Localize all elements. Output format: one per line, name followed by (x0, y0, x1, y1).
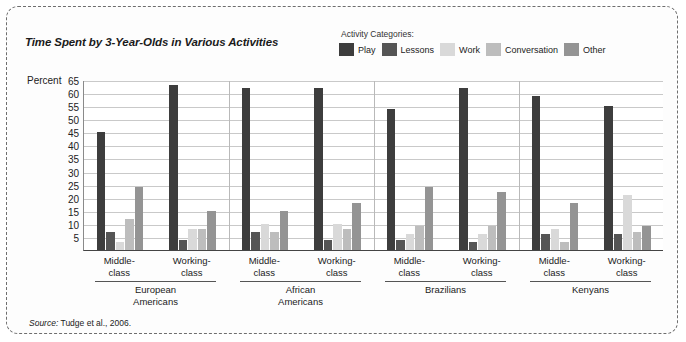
page-title: Time Spent by 3-Year-Olds in Various Act… (25, 36, 278, 48)
x-axis-labels: Middle-classWorking-classEuropeanAmerica… (83, 253, 663, 323)
bar-play (532, 96, 541, 250)
legend-items: PlayLessonsWorkConversationOther (339, 43, 669, 56)
group-separator (229, 81, 230, 250)
bar-lessons (469, 242, 478, 250)
legend-swatch-icon (564, 43, 579, 56)
legend-item-play[interactable]: Play (339, 43, 376, 56)
bar-conversation (198, 229, 207, 250)
bar-conversation (343, 229, 352, 250)
bar-other (352, 203, 361, 250)
x-sublabel: Middle-class (228, 255, 301, 278)
y-tick-label: 40 (68, 141, 79, 152)
bar-work (188, 229, 197, 250)
plot-wrapper: 6560555045403530252015105 (83, 81, 663, 251)
x-group-label: EuropeanAmericans (83, 284, 228, 307)
bar-lessons (614, 234, 623, 250)
group-separator (519, 81, 520, 250)
bar-lessons (396, 240, 405, 250)
bar-work (623, 195, 632, 250)
group-separator (374, 81, 375, 250)
bar-work (478, 234, 487, 250)
bar-other (570, 203, 579, 250)
group-rule (385, 281, 506, 282)
bar-work (333, 224, 342, 250)
bar-other (642, 226, 651, 250)
bar-work (261, 224, 270, 250)
legend-item-conversation[interactable]: Conversation (486, 43, 558, 56)
x-sublabel: Working-class (156, 255, 229, 278)
chart-legend: Activity Categories: PlayLessonsWorkConv… (339, 29, 669, 56)
x-group-label: Brazilians (373, 284, 518, 296)
bar-lessons (106, 232, 115, 250)
y-tick-label: 25 (68, 180, 79, 191)
bar-play (314, 88, 323, 250)
legend-swatch-icon (339, 43, 354, 56)
bar-other (135, 187, 144, 250)
bar-conversation (415, 226, 424, 250)
legend-item-label: Work (459, 45, 480, 55)
y-tick-label: 15 (68, 206, 79, 217)
bar-other (497, 192, 506, 250)
plot-area: 6560555045403530252015105 (83, 81, 663, 251)
legend-item-other[interactable]: Other (564, 43, 606, 56)
figure-panel: Time Spent by 3-Year-Olds in Various Act… (6, 6, 678, 334)
bar-lessons (324, 240, 333, 250)
legend-item-label: Conversation (505, 45, 558, 55)
bar-other (207, 211, 216, 250)
y-tick-label: 50 (68, 115, 79, 126)
bar-lessons (541, 234, 550, 250)
legend-item-label: Play (358, 45, 376, 55)
x-sublabel: Middle-class (518, 255, 591, 278)
y-tick-label: 35 (68, 154, 79, 165)
bar-play (242, 88, 251, 250)
source-citation: Tudge et al., 2006. (58, 318, 131, 328)
bar-conversation (488, 226, 497, 250)
y-tick-label: 20 (68, 193, 79, 204)
y-tick-label: 60 (68, 89, 79, 100)
group-rule (95, 281, 216, 282)
x-sublabel: Working-class (446, 255, 519, 278)
bar-conversation (633, 232, 642, 250)
legend-swatch-icon (440, 43, 455, 56)
legend-item-work[interactable]: Work (440, 43, 480, 56)
y-tick-label: 10 (68, 219, 79, 230)
bar-other (425, 187, 434, 250)
y-tick-label: 30 (68, 167, 79, 178)
legend-swatch-icon (486, 43, 501, 56)
x-group-label: Kenyans (518, 284, 663, 296)
bar-play (387, 109, 396, 250)
legend-item-lessons[interactable]: Lessons (382, 43, 435, 56)
legend-title: Activity Categories: (341, 29, 669, 39)
bar-work (406, 234, 415, 250)
y-tick-label: 45 (68, 128, 79, 139)
bar-lessons (251, 232, 260, 250)
source-note: Source: Tudge et al., 2006. (29, 318, 131, 328)
x-group-label: AfricanAmericans (228, 284, 373, 307)
y-tick-label: 5 (73, 232, 79, 243)
x-sublabel: Working-class (591, 255, 664, 278)
group-rule (240, 281, 361, 282)
bar-other (280, 211, 289, 250)
bar-work (116, 242, 125, 250)
bar-play (169, 85, 178, 250)
group-rule (530, 281, 651, 282)
bar-play (459, 88, 468, 250)
legend-item-label: Other (583, 45, 606, 55)
bar-conversation (560, 242, 569, 250)
x-sublabel: Working-class (301, 255, 374, 278)
bar-work (551, 229, 560, 250)
x-sublabel: Middle-class (83, 255, 156, 278)
y-axis-title: Percent (27, 75, 61, 86)
y-tick-label: 65 (68, 76, 79, 87)
bar-play (604, 106, 613, 250)
x-sublabel: Middle-class (373, 255, 446, 278)
bar-conversation (125, 219, 134, 250)
legend-item-label: Lessons (401, 45, 435, 55)
bar-play (97, 132, 106, 250)
y-tick-label: 55 (68, 102, 79, 113)
legend-swatch-icon (382, 43, 397, 56)
bar-lessons (179, 240, 188, 250)
source-word: Source: (29, 318, 58, 328)
bar-conversation (270, 232, 279, 250)
